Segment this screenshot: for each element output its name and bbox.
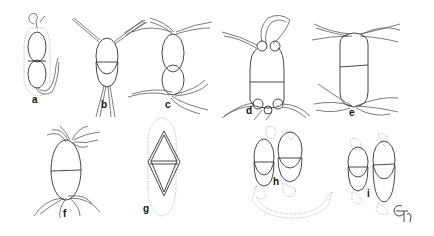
panel-label-d: d [246,105,252,116]
panel-b: b [72,18,145,117]
figure-canvas: a b c [0,0,434,236]
panel-d: d [222,15,310,120]
panel-h: h [252,126,332,218]
artist-signature [394,206,411,223]
panel-c: c [124,18,212,114]
panel-i: i [348,134,395,215]
panel-label-b: b [101,99,107,110]
panel-a: a [24,13,59,105]
panel-label-i: i [367,188,370,199]
panel-label-h: h [273,176,279,187]
panel-label-c: c [165,99,171,110]
panel-e: e [312,24,400,118]
panel-label-f: f [63,208,67,219]
panel-label-e: e [349,107,355,118]
panel-f: f [34,126,100,219]
scientific-figure: a b c [0,0,434,236]
panel-label-g: g [143,203,149,214]
panel-label-a: a [32,94,38,105]
panel-g: g [143,118,180,216]
